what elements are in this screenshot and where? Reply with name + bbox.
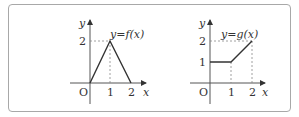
x-tick-2: 2 <box>249 86 256 99</box>
x-tick-1: 1 <box>228 86 235 99</box>
x-tick-1: 1 <box>107 86 114 99</box>
y-axis-label: y <box>198 17 206 30</box>
x-axis-label: x <box>262 86 269 99</box>
graph-f: y 2 O 1 2 x y=f(x) <box>70 17 150 104</box>
graphs-canvas: y 2 O 1 2 x y=f(x) y 2 1 O 1 2 x y=g(x) <box>0 0 299 117</box>
graph-g: y 2 1 O 1 2 x y=g(x) <box>190 17 269 104</box>
y-tick-1: 1 <box>199 56 206 69</box>
function-label: y=g(x) <box>220 28 258 41</box>
f-curve <box>90 41 131 83</box>
function-label: y=f(x) <box>109 28 144 41</box>
y-tick-2: 2 <box>79 35 86 48</box>
y-tick-2: 2 <box>199 35 206 48</box>
x-tick-2: 2 <box>128 86 135 99</box>
g-curve <box>210 41 252 62</box>
origin-label: O <box>79 86 88 99</box>
y-axis-label: y <box>78 17 86 30</box>
x-axis-label: x <box>143 86 150 99</box>
origin-label: O <box>199 86 208 99</box>
